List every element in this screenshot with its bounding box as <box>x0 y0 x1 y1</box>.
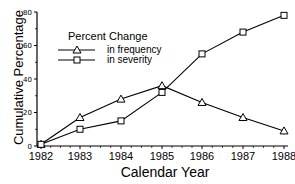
x-tick-label: 1984 <box>109 150 133 162</box>
x-tick-label: 1988 <box>272 150 295 162</box>
triangle-marker <box>198 98 206 105</box>
x-tick-label: 1987 <box>231 150 255 162</box>
square-marker <box>118 118 124 124</box>
square-marker <box>281 12 287 18</box>
square-marker <box>240 29 246 35</box>
triangle-marker <box>76 114 84 121</box>
square-marker <box>159 89 165 95</box>
y-axis-label: Cumulative Percentage <box>11 8 26 148</box>
x-axis-label: Calendar Year <box>40 164 290 180</box>
legend-label-severity: in severity <box>107 54 152 65</box>
square-marker <box>199 51 205 57</box>
triangle-marker <box>158 82 166 89</box>
legend-title: Percent Change <box>68 30 148 42</box>
x-tick-label: 1985 <box>150 150 174 162</box>
x-tick-label: 1982 <box>29 150 53 162</box>
legend-square-icon <box>74 57 80 63</box>
square-marker <box>38 141 44 147</box>
x-tick-label: 1983 <box>68 150 92 162</box>
x-tick-label: 1986 <box>190 150 214 162</box>
square-marker <box>77 126 83 132</box>
line-chart: 0204060801982198319841985198619871988Per… <box>0 0 295 184</box>
